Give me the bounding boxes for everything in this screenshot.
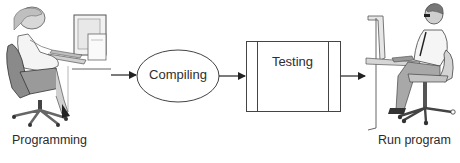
software-development-flow-diagram: Compiling Testing Programming Run progra…: [0, 0, 460, 163]
programming-label: Programming: [12, 133, 87, 147]
programmer-illustration-icon: [7, 7, 111, 127]
testing-label: Testing: [257, 54, 328, 69]
run-program-label: Run program: [378, 133, 451, 147]
testing-process-box: [247, 42, 341, 112]
compiling-label: Compiling: [137, 67, 219, 82]
user-illustration-icon: [366, 4, 455, 130]
